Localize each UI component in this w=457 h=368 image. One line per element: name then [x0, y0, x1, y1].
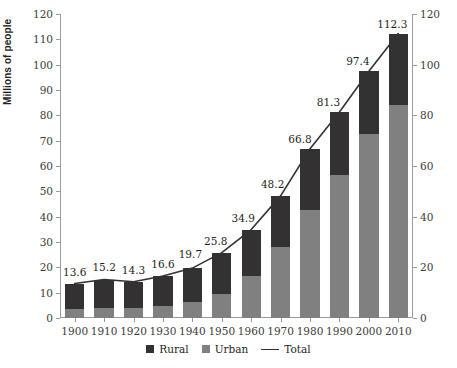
y-tick-right — [413, 14, 417, 15]
y-tick-left — [56, 293, 60, 294]
bar-segment-urban — [300, 210, 319, 318]
bar-segment-urban — [94, 308, 113, 318]
x-tick-label: 1960 — [238, 325, 265, 337]
chart-legend: Rural Urban Total — [0, 343, 457, 355]
y-tick-label-right: 80 — [420, 109, 433, 121]
bar-2010 — [389, 34, 408, 318]
bar-2000 — [359, 71, 378, 318]
bar-segment-rural — [271, 196, 290, 247]
y-tick-left — [56, 65, 60, 66]
bar-segment-rural — [153, 276, 172, 306]
bar-segment-rural — [183, 268, 202, 301]
data-label-1990: 81.3 — [317, 96, 340, 108]
bar-1900 — [65, 284, 84, 318]
legend-line-total-icon — [261, 349, 279, 350]
y-tick-left — [56, 90, 60, 91]
data-label-2000: 97.4 — [346, 55, 369, 67]
legend-label-urban: Urban — [215, 343, 249, 355]
y-tick-label-right: 100 — [420, 59, 440, 71]
x-tick — [104, 318, 105, 322]
bar-segment-urban — [389, 105, 408, 318]
y-tick-left — [56, 115, 60, 116]
y-tick-right — [413, 115, 417, 116]
y-tick-label-left: 30 — [40, 236, 53, 248]
y-tick-label-left: 50 — [40, 185, 53, 197]
bar-segment-urban — [183, 302, 202, 318]
x-tick-label: 1930 — [150, 325, 177, 337]
x-tick-label: 1990 — [326, 325, 353, 337]
plot-area: 0102030405060708090100110120 02040608010… — [60, 14, 413, 318]
y-tick-right — [413, 318, 417, 319]
x-tick-label: 1970 — [267, 325, 294, 337]
legend-label-rural: Rural — [159, 343, 188, 355]
y-tick-left — [56, 242, 60, 243]
x-tick-label: 2000 — [356, 325, 383, 337]
bar-segment-urban — [359, 134, 378, 318]
x-tick — [251, 318, 252, 322]
data-label-1940: 19.7 — [179, 248, 202, 260]
y-axis-left — [60, 14, 61, 318]
bar-1980 — [300, 149, 319, 318]
y-tick-label-left: 100 — [33, 59, 53, 71]
bar-segment-rural — [94, 280, 113, 309]
bar-segment-rural — [300, 149, 319, 211]
y-tick-label-right: 120 — [420, 8, 440, 20]
data-label-1930: 16.6 — [151, 258, 174, 270]
y-tick-left — [56, 318, 60, 319]
bar-1960 — [242, 230, 261, 318]
y-tick-left — [56, 39, 60, 40]
x-tick-label: 1980 — [297, 325, 324, 337]
data-label-1920: 14.3 — [122, 264, 145, 276]
x-tick — [281, 318, 282, 322]
y-tick-label-left: 110 — [33, 33, 53, 45]
bar-segment-urban — [330, 175, 349, 318]
legend-swatch-urban-icon — [202, 345, 210, 353]
bar-segment-urban — [212, 294, 231, 318]
bar-segment-urban — [242, 276, 261, 318]
y-tick-left — [56, 267, 60, 268]
x-tick-label: 1940 — [179, 325, 206, 337]
data-label-1980: 66.8 — [288, 133, 311, 145]
x-tick-label: 1900 — [61, 325, 88, 337]
y-tick-label-right: 0 — [420, 312, 427, 324]
y-tick-left — [56, 14, 60, 15]
bar-segment-rural — [124, 282, 143, 308]
y-tick-label-left: 70 — [40, 135, 53, 147]
y-tick-left — [56, 217, 60, 218]
legend-swatch-rural-icon — [146, 345, 154, 353]
x-tick — [192, 318, 193, 322]
bar-segment-rural — [65, 284, 84, 310]
bar-1930 — [153, 276, 172, 318]
y-tick-right — [413, 267, 417, 268]
bar-segment-rural — [212, 253, 231, 294]
x-tick — [222, 318, 223, 322]
y-tick-label-left: 120 — [33, 8, 53, 20]
y-tick-label-left: 90 — [40, 84, 53, 96]
x-tick — [369, 318, 370, 322]
y-tick-label-left: 60 — [40, 160, 53, 172]
y-tick-left — [56, 191, 60, 192]
y-tick-label-left: 10 — [40, 287, 53, 299]
data-label-2010: 112.3 — [377, 18, 407, 30]
y-tick-right — [413, 166, 417, 167]
bar-1920 — [124, 282, 143, 318]
bar-segment-urban — [153, 306, 172, 318]
bar-1990 — [330, 112, 349, 318]
data-label-1900: 13.6 — [63, 266, 86, 278]
bar-segment-urban — [65, 309, 84, 318]
data-label-1950: 25.8 — [204, 235, 227, 247]
chart-container: Millions of people 010203040506070809010… — [0, 0, 457, 368]
bar-segment-urban — [271, 247, 290, 318]
legend-item-urban: Urban — [202, 343, 249, 355]
x-tick-label: 1910 — [91, 325, 118, 337]
y-tick-left — [56, 166, 60, 167]
y-tick-label-left: 0 — [46, 312, 53, 324]
y-tick-left — [56, 141, 60, 142]
bar-segment-rural — [242, 230, 261, 277]
legend-item-total: Total — [261, 343, 310, 355]
y-tick-label-right: 20 — [420, 261, 433, 273]
x-tick — [163, 318, 164, 322]
x-tick — [134, 318, 135, 322]
x-tick-label: 1950 — [208, 325, 235, 337]
y-tick-right — [413, 65, 417, 66]
